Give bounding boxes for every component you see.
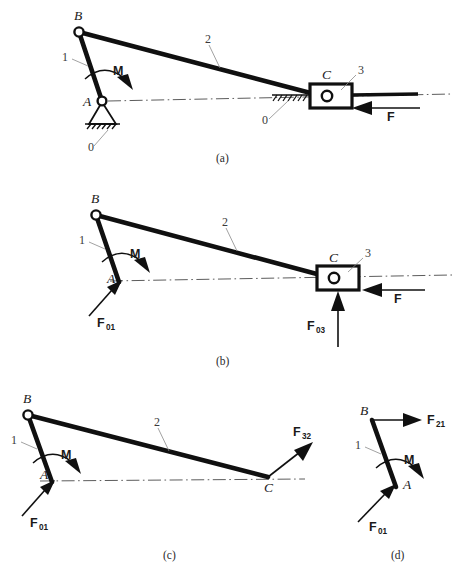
- panel-a-joint-B: [74, 27, 83, 36]
- panel-a-label-ground-slider: 0: [262, 113, 268, 127]
- panel-a-label-A: A: [82, 94, 92, 109]
- panel-d-force-F01-shaft: [358, 494, 385, 522]
- svg-text:F: F: [307, 319, 315, 333]
- panel-b: B A C 1 2 3 M F F 01 F 03 (b): [79, 191, 452, 368]
- panel-a-label-force-F: F: [387, 110, 395, 124]
- panel-b-link-2: [96, 215, 328, 277]
- svg-text:F: F: [369, 520, 377, 534]
- svg-text:F: F: [30, 516, 38, 530]
- panel-b-label-force-F: F: [394, 292, 402, 306]
- svg-text:01: 01: [39, 523, 49, 532]
- panel-d-label-moment-M: M: [404, 453, 414, 467]
- panel-a-joint-C: [322, 91, 332, 101]
- panel-a-leader-pivot-0: [94, 130, 108, 146]
- panel-b-joint-C: [329, 273, 339, 283]
- panel-b-caption: (b): [216, 355, 230, 368]
- panel-c: B A C 1 2 M F 01 F 32 (c): [11, 391, 313, 562]
- panel-c-leader-1: [21, 442, 37, 449]
- panel-d-label-A: A: [402, 477, 412, 492]
- panel-c-link-2: [28, 415, 268, 477]
- panel-b-leader-2: [226, 228, 237, 251]
- panel-a: B A C 1 2 3 0 0 M F (a): [62, 8, 452, 165]
- panel-b-label-moment-M: M: [130, 247, 140, 261]
- panel-a-label-link-3: 3: [358, 63, 364, 77]
- panel-a-leader-ground-0: [269, 101, 288, 119]
- svg-text:F: F: [427, 413, 435, 427]
- panel-b-label-B: B: [91, 191, 99, 206]
- svg-text:F: F: [293, 425, 301, 439]
- panel-c-label-C: C: [264, 480, 274, 495]
- panel-c-label-A: A: [39, 467, 49, 482]
- panel-d-leader-1: [365, 447, 381, 454]
- panel-c-force-F32-shaft: [268, 452, 300, 477]
- panel-b-centerline: [110, 275, 452, 281]
- panel-d-link-1: [372, 420, 396, 487]
- panel-a-label-link-1: 1: [62, 50, 68, 64]
- panel-d-label-force-F01: F 01: [369, 520, 388, 536]
- panel-d-force-F21-arrowhead: [403, 413, 422, 427]
- panel-a-force-F-arrowhead: [352, 101, 372, 115]
- panel-a-label-B: B: [74, 8, 82, 23]
- panel-c-force-F01-shaft: [22, 490, 45, 516]
- panel-a-caption: (a): [216, 152, 229, 165]
- panel-c-label-force-F01: F 01: [30, 516, 49, 532]
- panel-a-label-link-2: 2: [205, 32, 211, 46]
- panel-b-label-link-2: 2: [222, 215, 228, 229]
- panel-a-leader-1: [72, 59, 88, 66]
- panel-d: B A 1 M F 21 F 01 (d): [355, 403, 446, 562]
- panel-b-label-C: C: [329, 250, 339, 265]
- panel-c-force-F32-arrowhead: [294, 442, 313, 461]
- svg-text:01: 01: [106, 323, 116, 332]
- panel-b-label-link-1: 1: [79, 233, 85, 247]
- svg-text:21: 21: [436, 420, 446, 429]
- panel-b-label-force-F03: F 03: [307, 319, 326, 335]
- panel-c-label-force-F32: F 32: [293, 425, 312, 441]
- panel-a-label-ground-pivot: 0: [88, 140, 94, 154]
- mechanism-figure: B A C 1 2 3 0 0 M F (a) B: [0, 0, 460, 581]
- panel-d-label-link-1: 1: [355, 438, 361, 452]
- panel-c-label-B: B: [23, 391, 31, 406]
- panel-a-joint-A: [98, 97, 107, 106]
- panel-b-force-F01-shaft: [89, 290, 112, 316]
- panel-c-label-link-2: 2: [154, 415, 160, 429]
- panel-b-leader-1: [89, 242, 105, 249]
- panel-d-caption: (d): [391, 549, 405, 562]
- panel-a-link-1: [79, 32, 102, 101]
- panel-b-joint-B: [91, 210, 100, 219]
- panel-b-label-force-F01: F 01: [97, 316, 116, 332]
- panel-c-joint-B: [23, 410, 32, 419]
- panel-b-force-F-arrowhead: [362, 283, 382, 297]
- panel-b-label-A: A: [106, 271, 116, 286]
- svg-text:01: 01: [378, 527, 388, 536]
- panel-c-label-link-1: 1: [11, 433, 17, 447]
- svg-text:03: 03: [316, 326, 326, 335]
- panel-b-force-F03-arrowhead: [331, 291, 345, 311]
- panel-c-label-moment-M: M: [61, 448, 71, 462]
- panel-d-label-B: B: [360, 403, 368, 418]
- svg-text:F: F: [97, 316, 105, 330]
- panel-a-label-moment-M: M: [113, 64, 123, 78]
- panel-b-label-link-3: 3: [365, 246, 371, 260]
- svg-text:32: 32: [302, 432, 312, 441]
- panel-a-slider-rod: [352, 94, 418, 95]
- panel-a-slider-ground-hatching: [273, 95, 307, 101]
- panel-d-label-force-F21: F 21: [427, 413, 446, 429]
- panel-a-label-C: C: [322, 67, 332, 82]
- panel-c-caption: (c): [163, 549, 176, 562]
